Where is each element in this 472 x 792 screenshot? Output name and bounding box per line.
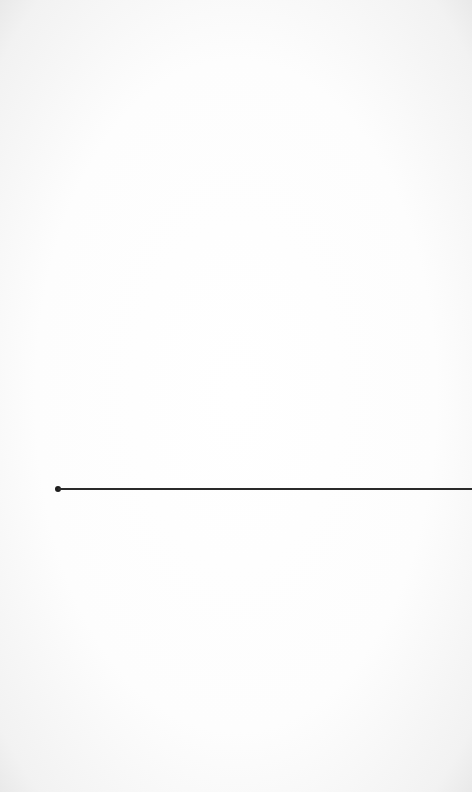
horizontal-line	[58, 488, 472, 490]
blank-canvas	[0, 0, 472, 792]
